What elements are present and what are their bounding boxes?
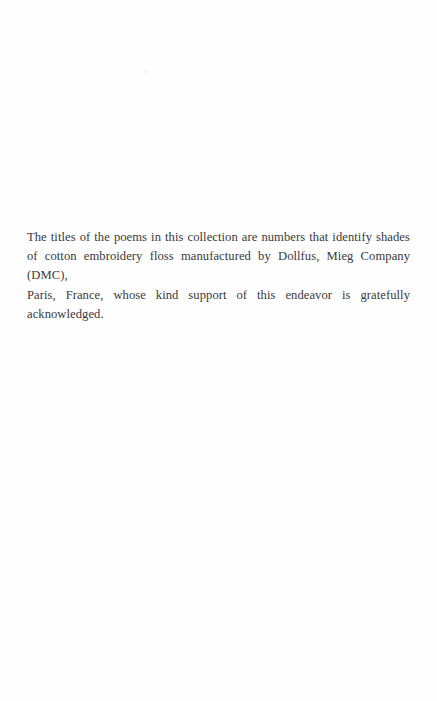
paragraph-line-2: of cotton embroidery floss manufactured …	[27, 247, 410, 285]
paragraph-line-1: The titles of the poems in this collecti…	[27, 228, 410, 247]
acknowledgment-paragraph: The titles of the poems in this collecti…	[27, 228, 410, 324]
scan-artifact-speck	[143, 70, 149, 75]
paragraph-line-3: Paris, France, whose kind support of thi…	[27, 286, 410, 324]
acknowledgment-note: The titles of the poems in this collecti…	[27, 228, 410, 324]
book-page: The titles of the poems in this collecti…	[0, 0, 437, 701]
